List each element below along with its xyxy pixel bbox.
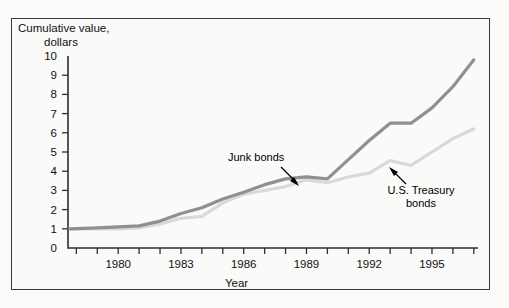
- x-tick-label: 1992: [356, 258, 382, 270]
- y-tick-label: 2: [51, 204, 57, 216]
- series-line-treasury-bonds: [70, 129, 474, 229]
- y-tick-label: 5: [51, 146, 57, 158]
- y-tick-label: 7: [51, 108, 57, 120]
- annotation-junk-bonds: Junk bonds: [228, 151, 285, 163]
- y-tick-label: 1: [51, 223, 57, 235]
- x-axis-title-text: Year: [225, 277, 248, 289]
- x-tick-label: 1989: [294, 258, 320, 270]
- y-tick-label: 8: [51, 88, 57, 100]
- chart-figure: Cumulative value, dollars 01234567891019…: [0, 0, 509, 308]
- x-tick-label: 1995: [419, 258, 445, 270]
- x-tick-label: 1980: [105, 258, 131, 270]
- y-tick-label: 0: [51, 242, 57, 254]
- x-tick-label: 1986: [231, 258, 257, 270]
- y-tick-label: 3: [51, 184, 57, 196]
- y-tick-label: 6: [51, 127, 57, 139]
- plot-canvas: 012345678910198019831986198919921995 Jun…: [0, 0, 509, 308]
- y-tick-label: 9: [51, 69, 57, 81]
- y-tick-label: 10: [44, 50, 57, 62]
- y-tick-label: 4: [51, 165, 58, 177]
- x-tick-label: 1983: [168, 258, 194, 270]
- x-axis-title: Year: [0, 277, 509, 289]
- annotation-treasury-bonds-line1: U.S. Treasury: [387, 184, 455, 196]
- annotation-treasury-bonds-line2: bonds: [406, 197, 436, 209]
